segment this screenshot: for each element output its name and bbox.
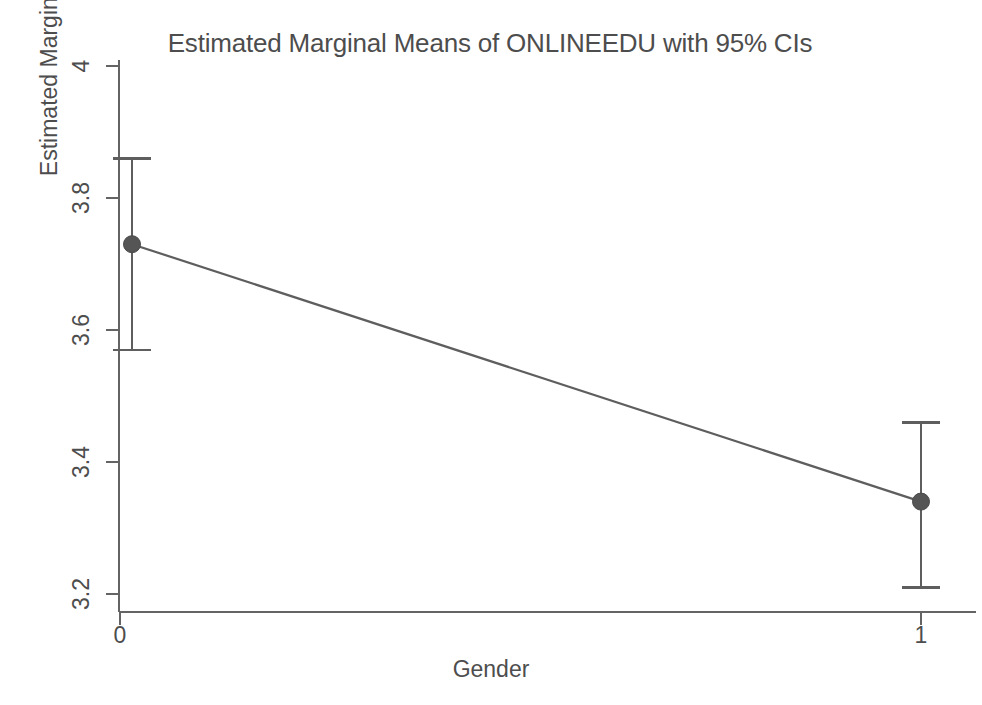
y-axis-ticks bbox=[106, 66, 119, 594]
series-line-onlineedu bbox=[132, 244, 921, 501]
data-point-marker-0 bbox=[124, 236, 141, 253]
x-axis-ticks bbox=[120, 612, 921, 625]
data-point-marker-1 bbox=[913, 493, 930, 510]
chart-figure: Estimated Marginal Means of ONLINEEDU wi… bbox=[0, 0, 982, 705]
plot-area bbox=[0, 0, 982, 705]
